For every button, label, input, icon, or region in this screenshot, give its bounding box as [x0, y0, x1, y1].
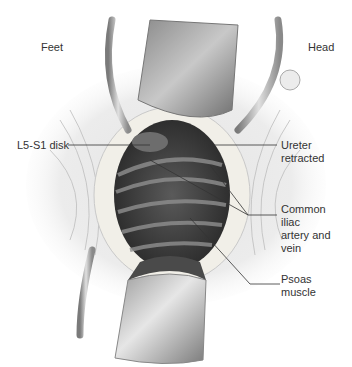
- retractor-ring: [280, 70, 300, 90]
- bottom-retractor-blade: [115, 274, 206, 364]
- orientation-head: Head: [308, 41, 334, 54]
- label-psoas-muscle: Psoas muscle: [281, 273, 316, 299]
- label-ureter-retracted: Ureter retracted: [281, 139, 324, 165]
- label-common-iliac: Common iliac artery and vein: [281, 203, 331, 255]
- top-retractor-blade: [138, 20, 238, 117]
- l5-s1-disk: [132, 132, 168, 152]
- orientation-feet: Feet: [41, 41, 63, 54]
- surgical-illustration: [0, 0, 352, 367]
- label-l5-s1-disk: L5-S1 disk: [17, 139, 69, 152]
